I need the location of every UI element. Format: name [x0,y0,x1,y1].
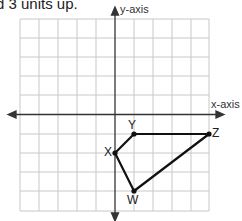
y-axis-label: y-axis [120,3,149,15]
coordinate-plane [0,0,242,221]
polygon-wxyz [112,131,211,193]
y-axis-up-arrow-icon [112,7,119,15]
vertex-z-point [206,131,211,136]
x-axis-right-arrow-icon [216,111,224,118]
vertex-y-point [131,131,136,136]
x-axis [8,111,224,118]
x-axis-left-arrow-icon [8,111,16,118]
x-axis-label: x-axis [211,98,240,110]
y-axis-down-arrow-icon [112,213,119,221]
vertex-z-label: Z [212,126,219,140]
vertex-y-label: Y [128,118,136,132]
vertex-w-label: W [127,193,138,207]
vertex-x-label: X [104,145,112,159]
vertex-x-point [112,150,117,155]
